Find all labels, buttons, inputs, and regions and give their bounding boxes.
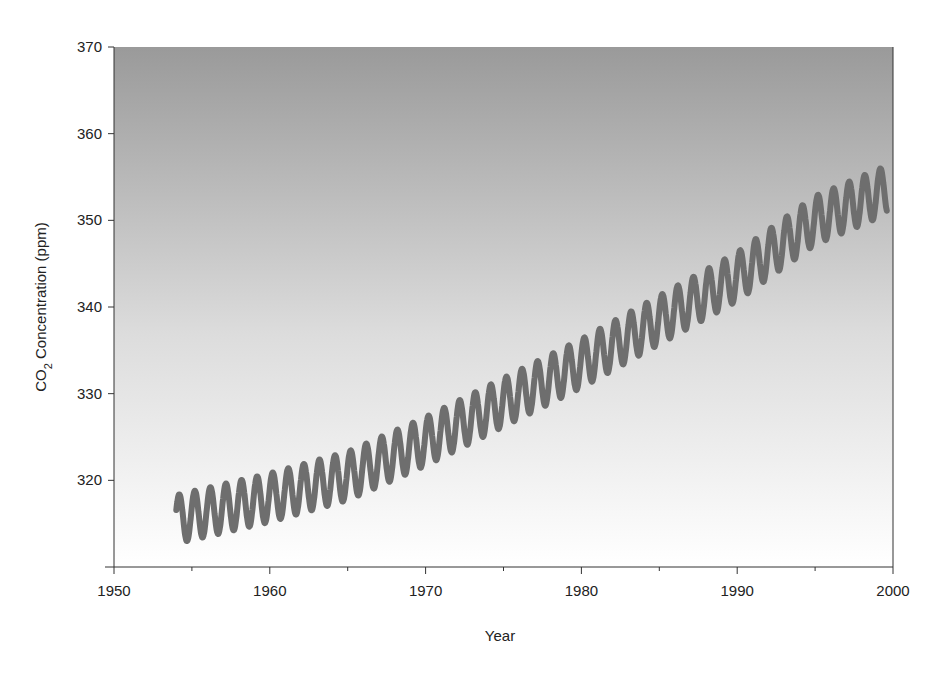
x-tick-label: 1970 xyxy=(409,582,442,599)
plot-area-background xyxy=(114,47,893,567)
y-tick-label: 360 xyxy=(77,125,102,142)
x-axis-label: Year xyxy=(485,627,515,644)
y-tick-label: 320 xyxy=(77,471,102,488)
y-axis-ticks: 320330340350360370 xyxy=(77,38,114,488)
y-tick-label: 370 xyxy=(77,38,102,55)
x-tick-label: 1990 xyxy=(721,582,754,599)
y-tick-label: 330 xyxy=(77,385,102,402)
x-tick-label: 1950 xyxy=(97,582,130,599)
x-axis-ticks: 195019601970198019902000 xyxy=(97,567,909,599)
x-tick-label: 1960 xyxy=(253,582,286,599)
y-tick-label: 350 xyxy=(77,211,102,228)
co2-line-chart: 320330340350360370 195019601970198019902… xyxy=(0,0,946,677)
y-tick-label: 340 xyxy=(77,298,102,315)
x-tick-label: 1980 xyxy=(565,582,598,599)
x-tick-label: 2000 xyxy=(876,582,909,599)
y-axis-label: CO2 Concentration (ppm) xyxy=(32,222,54,392)
